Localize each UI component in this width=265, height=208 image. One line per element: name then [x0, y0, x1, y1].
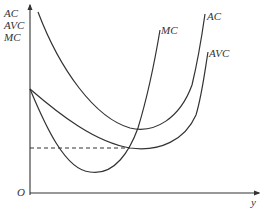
x-axis-label: y	[250, 196, 256, 208]
curve-label-avc: AVC	[208, 47, 230, 59]
avc-curve	[30, 52, 208, 149]
curve-label-mc: MC	[160, 24, 178, 36]
y-axis-label-mc: MC	[3, 31, 21, 43]
cost-curves-diagram: AC AVC MC O y MC AC AVC	[0, 0, 265, 208]
curve-label-ac: AC	[206, 10, 222, 22]
origin-label: O	[17, 186, 25, 198]
mc-curve	[30, 30, 160, 172]
ac-curve	[38, 12, 205, 129]
y-axis-label-avc: AVC	[3, 19, 25, 31]
y-axis-label-ac: AC	[3, 7, 19, 19]
